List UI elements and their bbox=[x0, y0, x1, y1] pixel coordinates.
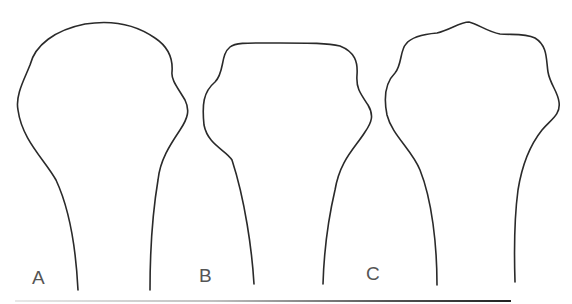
baseline-rule bbox=[15, 300, 511, 302]
outline-shape-c bbox=[385, 22, 559, 285]
bone-outline-figure bbox=[0, 0, 572, 304]
outline-shape-b bbox=[203, 43, 371, 284]
panel-label-a: A bbox=[32, 268, 45, 287]
panel-label-c: C bbox=[366, 264, 380, 283]
panel-label-b: B bbox=[199, 266, 212, 285]
outline-shape-a bbox=[17, 23, 187, 290]
